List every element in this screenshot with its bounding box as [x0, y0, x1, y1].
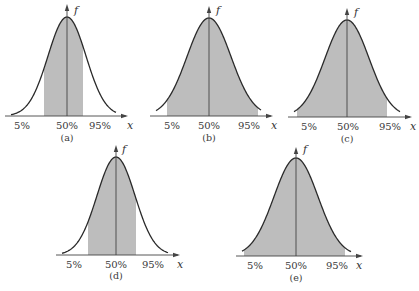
y-axis-label: f — [73, 4, 80, 17]
y-axis-arrow-icon — [345, 8, 349, 15]
label-95-percent: 95% — [379, 121, 401, 132]
label-95-percent: 95% — [89, 120, 111, 131]
label-5-percent: 5% — [247, 260, 263, 271]
panels-root: fx5%50%95%(a)fx5%50%95%(b)fx5%50%95%(c)f… — [5, 4, 417, 283]
label-5-percent: 5% — [301, 121, 317, 132]
label-95-percent: 95% — [326, 260, 348, 271]
label-50-percent: 50% — [337, 121, 359, 132]
label-50-percent: 50% — [56, 120, 78, 131]
label-5-percent: 5% — [164, 120, 180, 131]
y-axis-label: f — [121, 143, 128, 156]
panel-e: fx5%50%95%(e) — [236, 143, 363, 283]
y-axis-arrow-icon — [207, 6, 211, 13]
shaded-area — [244, 158, 345, 256]
y-axis-arrow-icon — [65, 4, 69, 11]
x-axis-arrow-icon — [266, 114, 273, 118]
x-axis-arrow-icon — [356, 254, 363, 258]
x-axis-label: x — [410, 120, 417, 133]
y-axis-arrow-icon — [294, 147, 298, 154]
label-95-percent: 95% — [142, 259, 164, 270]
x-axis-label: x — [177, 258, 184, 271]
panel-caption: (b) — [202, 132, 216, 143]
x-axis-arrow-icon — [173, 253, 180, 257]
x-axis-arrow-icon — [121, 114, 128, 118]
distribution-figure: fx5%50%95%(a)fx5%50%95%(b)fx5%50%95%(c)f… — [0, 0, 419, 291]
panel-c: fx5%50%95%(c) — [288, 6, 417, 144]
panel-caption: (c) — [341, 133, 354, 144]
shaded-area — [88, 157, 136, 255]
panel-caption: (d) — [109, 270, 123, 281]
panel-b: fx5%50%95%(b) — [150, 4, 278, 143]
label-50-percent: 50% — [105, 259, 127, 270]
panel-d: fx5%50%95%(d) — [56, 143, 184, 281]
panel-caption: (e) — [289, 272, 302, 283]
x-axis-arrow-icon — [405, 115, 412, 119]
y-axis-arrow-icon — [114, 145, 118, 152]
label-50-percent: 50% — [198, 120, 220, 131]
panel-a: fx5%50%95%(a) — [5, 4, 134, 143]
x-axis-label: x — [356, 259, 363, 272]
y-axis-label: f — [215, 4, 222, 17]
x-axis-label: x — [127, 119, 134, 132]
label-95-percent: 95% — [238, 120, 260, 131]
label-50-percent: 50% — [285, 260, 307, 271]
label-5-percent: 5% — [66, 259, 82, 270]
panel-caption: (a) — [60, 132, 73, 143]
x-axis-label: x — [271, 119, 278, 132]
shaded-area — [167, 18, 258, 116]
label-5-percent: 5% — [14, 120, 30, 131]
y-axis-label: f — [302, 143, 309, 156]
y-axis-label: f — [353, 6, 360, 19]
